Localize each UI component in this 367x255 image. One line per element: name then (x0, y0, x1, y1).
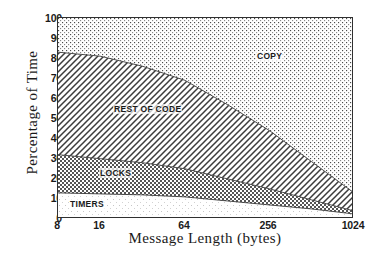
x-axis-title: Message Length (bytes) (57, 230, 353, 247)
stacked-area-svg (58, 18, 353, 218)
plot-area: COPY REST OF CODE LOCKS TIMERS (57, 17, 353, 218)
chart-figure: Percentage of Time 100 90 80 70 60 50 40… (0, 0, 367, 255)
